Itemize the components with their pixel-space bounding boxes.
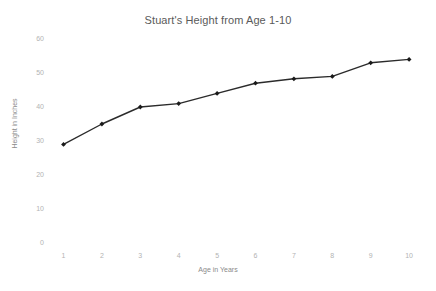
x-tick-label: 8 xyxy=(321,252,343,259)
data-point xyxy=(253,81,258,86)
x-tick-label: 7 xyxy=(283,252,305,259)
data-point-markers xyxy=(61,57,411,147)
y-axis-label: Height in Inches xyxy=(11,94,18,154)
data-point xyxy=(407,57,412,62)
data-point xyxy=(176,101,181,106)
data-point xyxy=(292,76,297,81)
y-tick-label: 40 xyxy=(22,103,44,110)
x-tick-label: 4 xyxy=(168,252,190,259)
x-tick-label: 9 xyxy=(360,252,382,259)
x-axis-label: Age in Years xyxy=(0,266,436,273)
data-point xyxy=(368,60,373,65)
x-tick-label: 6 xyxy=(245,252,267,259)
y-tick-label: 20 xyxy=(22,171,44,178)
y-tick-label: 0 xyxy=(22,239,44,246)
x-tick-label: 10 xyxy=(398,252,420,259)
line-chart: Stuart's Height from Age 1-10 0102030405… xyxy=(0,0,436,291)
y-tick-label: 30 xyxy=(22,137,44,144)
y-tick-label: 60 xyxy=(22,35,44,42)
data-point xyxy=(330,74,335,79)
x-tick-label: 2 xyxy=(91,252,113,259)
data-series-line xyxy=(64,59,410,144)
x-tick-label: 5 xyxy=(206,252,228,259)
x-tick-label: 1 xyxy=(53,252,75,259)
data-point xyxy=(138,105,143,110)
y-tick-label: 10 xyxy=(22,205,44,212)
data-point xyxy=(215,91,220,96)
plot-area xyxy=(0,0,436,291)
y-tick-label: 50 xyxy=(22,69,44,76)
x-tick-label: 3 xyxy=(129,252,151,259)
